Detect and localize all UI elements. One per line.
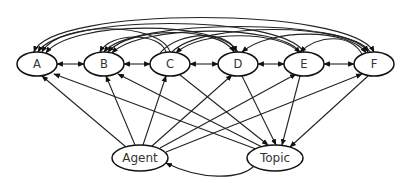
node-c-label: C: [166, 57, 174, 71]
node-f[interactable]: F: [354, 52, 394, 76]
node-d-label: D: [234, 57, 243, 71]
node-b-label: B: [100, 57, 108, 71]
graph-canvas: A B C D E F Agent Topic: [0, 0, 408, 183]
node-c[interactable]: C: [150, 52, 190, 76]
node-e[interactable]: E: [284, 52, 324, 76]
edges: [34, 18, 374, 177]
node-topic[interactable]: Topic: [247, 145, 303, 171]
node-d[interactable]: D: [218, 52, 258, 76]
node-a[interactable]: A: [17, 52, 57, 76]
node-agent-label: Agent: [122, 151, 158, 165]
node-b[interactable]: B: [84, 52, 124, 76]
node-f-label: F: [371, 57, 378, 71]
node-topic-label: Topic: [259, 151, 290, 165]
node-a-label: A: [33, 57, 41, 71]
node-agent[interactable]: Agent: [112, 145, 168, 171]
node-e-label: E: [300, 57, 307, 71]
